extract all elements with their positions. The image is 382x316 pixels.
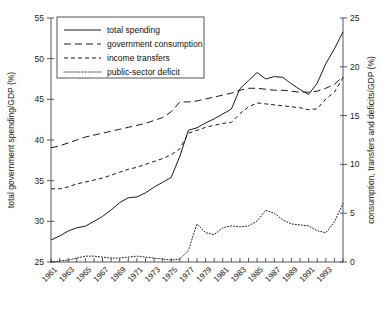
x-ticklabel: 1979 [195,265,214,284]
legend: total spendinggovernment consumptioninco… [57,17,204,78]
x-ticklabel: 1961 [40,265,59,284]
y-ticklabel-left: 50 [35,54,45,64]
x-ticklabel: 1977 [177,265,196,284]
x-ticklabel: 1973 [143,265,162,284]
legend-label: income transfers [107,53,170,63]
series-line-income-transfers [51,78,343,189]
series-line-public-sector-deficit [51,203,343,262]
x-ticklabel: 1981 [212,265,231,284]
y-ticklabel-right: 25 [350,13,360,23]
x-ticklabel: 1963 [57,265,76,284]
y-axis-left-title: total government spending/GDP (%) [6,72,16,209]
x-ticklabel: 1967 [92,265,111,284]
legend-label: total spending [107,25,160,35]
x-ticklabel: 1983 [229,265,248,284]
y-ticklabel-left: 35 [35,176,45,186]
x-ticklabel: 1991 [298,265,317,284]
legend-label: government consumption [107,39,203,49]
legend-label: public-sector deficit [107,67,180,77]
y-ticklabel-right: 10 [350,159,360,169]
y-ticklabel-right: 5 [350,208,355,218]
x-axis-labels: 1961196319651967196919711973197519771979… [40,265,334,284]
x-ticklabel: 1969 [109,265,128,284]
series-line-government-consumption [51,77,343,148]
x-ticklabel: 1965 [74,265,93,284]
x-ticklabel: 1971 [126,265,145,284]
y-ticklabel-left: 45 [35,94,45,104]
y-ticklabel-right: 20 [350,62,360,72]
y-ticklabel-right: 0 [350,257,355,267]
x-ticklabel: 1993 [315,265,334,284]
x-ticklabel: 1975 [160,265,179,284]
x-ticklabel: 1985 [246,265,265,284]
y-ticklabel-left: 25 [35,257,45,267]
y-ticklabel-left: 55 [35,13,45,23]
x-ticklabel: 1987 [263,265,282,284]
y-ticklabel-right: 15 [350,111,360,121]
y-axis-right-title: consumption, transfers and deficits/GDP … [366,56,376,224]
x-ticklabel: 1989 [281,265,300,284]
chart-figure: 25303540455055 0510152025 19611963196519… [0,0,382,316]
y-ticklabel-left: 30 [35,216,45,226]
chart-svg: 25303540455055 0510152025 19611963196519… [0,0,382,316]
x-axis-ticks [51,258,343,262]
y-ticklabel-left: 40 [35,135,45,145]
